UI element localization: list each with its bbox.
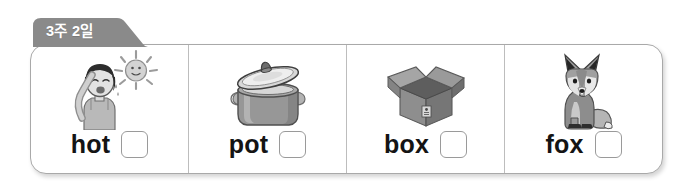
lesson-tab-label: 3주 2일 — [46, 21, 94, 41]
illustration-hot — [31, 45, 188, 129]
person-sweating-under-sun-icon — [58, 48, 162, 130]
word-label-hot: hot — [71, 130, 110, 158]
checkbox-pot[interactable] — [279, 131, 306, 158]
checkbox-fox[interactable] — [595, 131, 622, 158]
illustration-fox — [505, 45, 662, 129]
word-row-box: box — [384, 130, 467, 158]
sitting-fox-icon — [544, 48, 624, 130]
word-label-fox: fox — [545, 130, 583, 158]
word-label-box: box — [384, 130, 429, 158]
word-label-pot: pot — [229, 130, 268, 158]
checkbox-hot[interactable] — [121, 131, 148, 158]
cooking-pot-with-lid-icon — [218, 48, 318, 130]
checkbox-box[interactable] — [440, 131, 467, 158]
word-row-hot: hot — [71, 130, 148, 158]
word-row-pot: pot — [229, 130, 306, 158]
worksheet-root: 3주 2일 — [0, 0, 693, 191]
open-cardboard-box-icon — [378, 48, 474, 130]
word-card-pot[interactable]: pot — [189, 45, 347, 173]
word-card-hot[interactable]: hot — [31, 45, 189, 173]
lesson-tab: 3주 2일 — [33, 17, 149, 47]
illustration-pot — [189, 45, 346, 129]
word-cards-panel: hot — [30, 44, 663, 174]
illustration-box — [347, 45, 504, 129]
word-row-fox: fox — [545, 130, 621, 158]
word-card-fox[interactable]: fox — [505, 45, 662, 173]
word-card-box[interactable]: box — [347, 45, 505, 173]
